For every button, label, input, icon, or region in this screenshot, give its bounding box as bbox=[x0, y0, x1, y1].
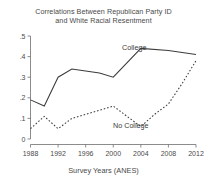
y-tick-label: .5 bbox=[20, 33, 26, 40]
x-tick-label: 1988 bbox=[23, 150, 39, 157]
x-tick-label: 2012 bbox=[188, 150, 204, 157]
x-tick-label: 2004 bbox=[133, 150, 149, 157]
x-tick-label: 1992 bbox=[50, 150, 66, 157]
x-tick-labels: 1988199219962000200420082012 bbox=[23, 150, 204, 157]
y-axis: .5.4.3.2.10 bbox=[20, 33, 31, 143]
series-annotation-college: College bbox=[122, 43, 146, 52]
x-axis: 1988199219962000200420082012 bbox=[23, 145, 204, 158]
y-tick-marks bbox=[28, 36, 31, 139]
y-tick-labels: .5.4.3.2.10 bbox=[20, 33, 26, 143]
x-tick-label: 2000 bbox=[105, 150, 121, 157]
chart-container: Correlations Between Republican Party ID… bbox=[0, 0, 207, 179]
y-tick-label: 0 bbox=[22, 136, 26, 143]
x-tick-label: 1996 bbox=[78, 150, 94, 157]
series-line-no-college bbox=[31, 61, 197, 129]
y-tick-label: .4 bbox=[20, 53, 26, 60]
series-line-college bbox=[31, 48, 197, 106]
x-tick-label: 2008 bbox=[161, 150, 177, 157]
y-tick-label: .1 bbox=[20, 115, 26, 122]
x-axis-title: Survey Years (ANES) bbox=[0, 166, 207, 175]
plot-area: .5.4.3.2.10 1988199219962000200420082012… bbox=[0, 0, 207, 179]
y-tick-label: .3 bbox=[20, 74, 26, 81]
series-annotation-no-college: No College bbox=[113, 121, 149, 130]
x-tick-marks bbox=[31, 145, 197, 148]
y-tick-label: .2 bbox=[20, 94, 26, 101]
